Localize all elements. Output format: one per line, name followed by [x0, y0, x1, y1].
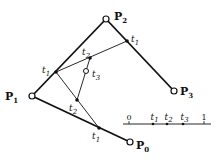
- level1-point-icon: [125, 39, 129, 43]
- level1-point-icon: [54, 70, 58, 74]
- result-point-label: t3: [92, 69, 101, 82]
- control-point-label-p0: P0: [136, 139, 149, 154]
- number-line-label: 0: [127, 113, 132, 122]
- diagram-nodes: [29, 16, 177, 145]
- de-casteljau-diagram: P0P1P2P3t1t1t1t2t2t3 0t1t2t31: [0, 0, 223, 166]
- level1-edge-upper: [56, 41, 127, 72]
- level2-point-icon: [75, 98, 79, 102]
- number-line-label: t2: [165, 112, 174, 124]
- control-point-label-p3: P3: [180, 85, 193, 100]
- control-point-p0-icon: [127, 139, 133, 145]
- level1-point-label: t1: [42, 65, 50, 78]
- number-line-label: t3: [181, 112, 190, 124]
- parameter-number-line: 0t1t2t31: [123, 112, 211, 125]
- level1-point-label: t1: [131, 34, 139, 47]
- control-point-p1-icon: [29, 93, 35, 99]
- control-point-p3-icon: [171, 88, 177, 94]
- level2-point-label: t2: [82, 47, 91, 60]
- control-point-label-p1: P1: [5, 90, 18, 105]
- control-edge-p2-p3: [106, 19, 174, 91]
- level1-point-label: t1: [92, 131, 100, 144]
- control-edge-p1-p0: [32, 96, 130, 142]
- control-edge-p1-p2: [32, 19, 106, 96]
- level1-point-icon: [97, 126, 101, 130]
- number-line-label: 1: [202, 113, 207, 122]
- level2-edge: [77, 58, 90, 100]
- control-point-p2-icon: [103, 16, 109, 22]
- control-point-label-p2: P2: [114, 10, 127, 25]
- result-point-icon: [84, 69, 89, 74]
- number-line-label: t1: [151, 112, 159, 124]
